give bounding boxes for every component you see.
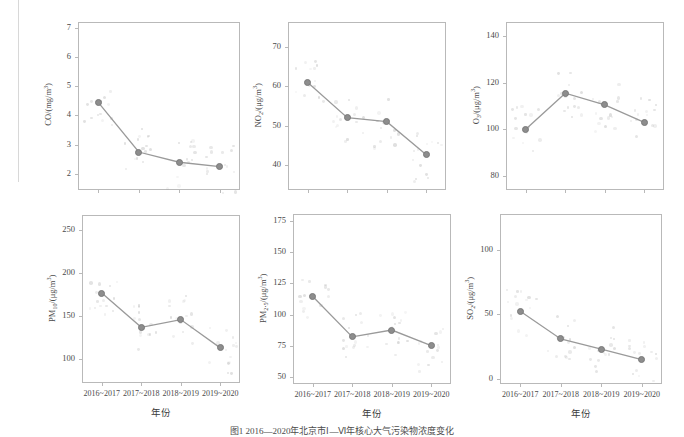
data-point-marker [517,308,524,315]
data-point-marker [598,346,605,353]
